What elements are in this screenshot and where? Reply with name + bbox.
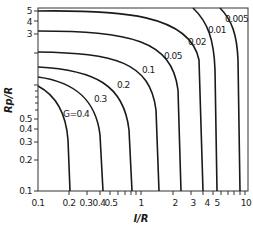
y-tick-labels: 0.1 0.2 0.3 0.4 0.5 3 4 5: [19, 6, 33, 196]
svg-text:0.4: 0.4: [19, 124, 33, 134]
y-axis-ticks: [34, 11, 38, 191]
x-tick-labels: 0.1 0.2 0.3 0.4 0.5 1 2 3 4 5 10: [32, 198, 252, 208]
curve-g-0.005: [220, 8, 240, 191]
svg-text:3: 3: [27, 29, 32, 39]
svg-text:10: 10: [241, 198, 252, 208]
svg-text:5: 5: [214, 198, 219, 208]
curve-g-0.1: [38, 52, 159, 191]
svg-text:0.2: 0.2: [63, 198, 76, 208]
x-axis-ticks: [69, 191, 245, 195]
y-axis-title: Rp/R: [3, 87, 14, 113]
label-g-0.2: 0.2: [117, 80, 130, 90]
svg-text:0.2: 0.2: [19, 155, 32, 165]
svg-text:4: 4: [204, 198, 210, 208]
svg-text:3: 3: [190, 198, 195, 208]
curves: [38, 8, 240, 191]
label-g-0.005: 0.005: [225, 14, 248, 24]
svg-text:0.5: 0.5: [105, 198, 118, 208]
svg-text:0.1: 0.1: [32, 198, 45, 208]
svg-text:0.1: 0.1: [19, 186, 32, 196]
curve-g-0.01: [193, 8, 217, 191]
label-g-0.1: 0.1: [142, 65, 155, 75]
svg-text:2: 2: [172, 198, 177, 208]
svg-text:0.5: 0.5: [19, 114, 32, 124]
svg-text:0.3: 0.3: [80, 198, 93, 208]
x-axis-title: l/R: [134, 213, 149, 224]
svg-text:5: 5: [27, 6, 32, 16]
label-g-0.3: 0.3: [94, 94, 107, 104]
label-g-0.4: G=0.4: [63, 109, 90, 119]
svg-text:4: 4: [27, 17, 33, 27]
chart: G=0.4 0.3 0.2 0.1 0.05 0.02 0.01 0.005 0…: [0, 0, 253, 228]
label-g-0.01: 0.01: [208, 25, 226, 35]
curve-g-0.4: [38, 86, 70, 191]
label-g-0.05: 0.05: [164, 51, 182, 61]
svg-text:1: 1: [138, 198, 143, 208]
curve-g-0.05: [38, 31, 181, 191]
label-g-0.02: 0.02: [188, 37, 206, 47]
svg-text:0.3: 0.3: [19, 137, 32, 147]
